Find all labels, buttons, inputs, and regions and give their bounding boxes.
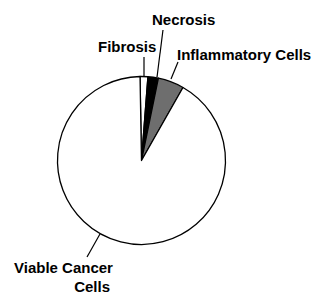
necrosis-label: Necrosis: [152, 11, 215, 28]
fibrosis-label: Fibrosis: [98, 38, 156, 55]
inflammatory-leader-line: [171, 62, 178, 79]
pie-chart: [0, 0, 319, 299]
viable-cancer-cells-label: Viable Cancer Cells: [14, 258, 110, 296]
inflammatory-cells-label: Inflammatory Cells: [177, 46, 311, 63]
viable-label-line1: Viable Cancer: [14, 258, 110, 277]
viable-label-line2: Cells: [14, 277, 110, 296]
pie-slices: [58, 77, 226, 245]
viable-leader-line: [87, 234, 100, 257]
necrosis-leader-line: [157, 30, 163, 77]
